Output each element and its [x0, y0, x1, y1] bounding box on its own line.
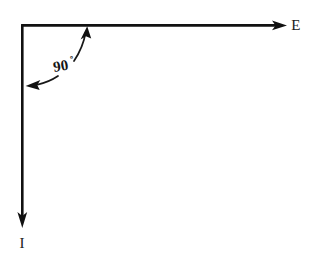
axes-diagram-svg: E I 90 º [0, 0, 316, 265]
figure-canvas: E I 90 º [0, 0, 316, 265]
vertical-axis-label: I [20, 235, 25, 251]
paper-background [0, 0, 316, 265]
horizontal-axis-label: E [291, 17, 301, 33]
angle-value-label: 90 [52, 57, 69, 75]
